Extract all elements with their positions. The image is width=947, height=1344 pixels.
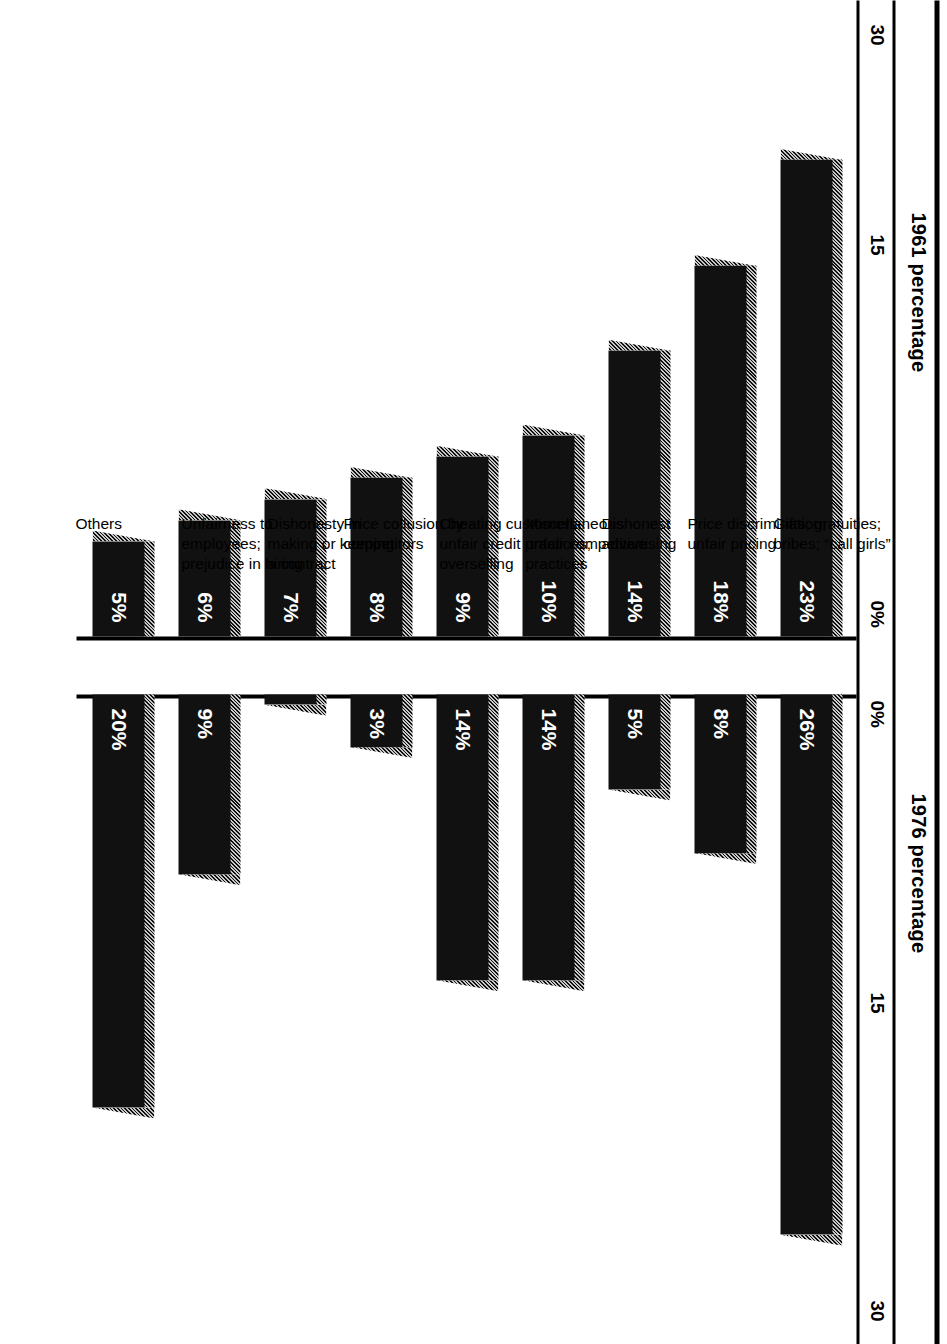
bar-1961: 5% [92,530,154,636]
axis-tick-right-15: 15 [865,992,887,1013]
bar-value-label-1961: 18% [694,580,746,622]
bar-value-label-1961: 9% [436,592,488,622]
category-label-line: prejudice in hiring [181,553,481,573]
bar-value-label-1961: 6% [178,592,230,622]
bar-1976: 3% [350,694,412,758]
plot-1976: 26% 8% 5% 14% 14% 3% [76,694,856,1344]
bar-value-label-1976: 9% [178,708,230,738]
bar-1976: 8% [694,694,756,864]
bar-value-label-1976: 1% [264,708,316,738]
bar-value-label-1961: 7% [264,592,316,622]
axis-tick-right-0: 0% [865,700,887,727]
axis-tick-left-15: 15 [865,234,887,255]
category-label: Others [75,513,375,533]
bar-value-label-1961: 14% [608,580,660,622]
axis-tick-left-0: 0% [865,600,887,627]
bar-value-label-1961: 10% [522,580,574,622]
bar-1976: 26% [780,694,842,1245]
bar-1976: 1% [264,694,326,715]
bar-1961: 18% [694,254,756,636]
bar-value-label-1976: 3% [350,708,402,738]
bar-value-label-1961: 5% [92,592,144,622]
panel-title-1961: 1961 percentage [906,212,929,372]
bar-value-label-1976: 20% [92,708,144,750]
bar-value-label-1961: 8% [350,592,402,622]
bar-value-label-1976: 26% [780,708,832,750]
bar-1976: 5% [608,694,670,800]
bar-value-label-1961: 23% [780,580,832,622]
axis-tick-right-30: 30 [865,1300,887,1321]
bar-value-label-1976: 14% [436,708,488,750]
bar-value-label-1976: 14% [522,708,574,750]
bar-1976: 9% [178,694,240,885]
bar-1976: 14% [436,694,498,991]
panel-title-1976: 1976 percentage [906,793,929,953]
rotated-chart-canvas: 1961 percentage 1976 percentage 30 15 0%… [0,0,947,1344]
bar-value-label-1976: 5% [608,708,660,738]
axis-baseline-1961 [76,636,856,640]
bar-1961: 14% [608,339,670,636]
bar-1976: 14% [522,694,584,991]
category-label-gutter: Gifts; gratuities;bribes; “call girls”Pr… [76,640,856,694]
chart-page: 1961 percentage 1976 percentage 30 15 0%… [0,0,947,1344]
bar-value-label-1976: 8% [694,708,746,738]
frame-rule-top-inner [892,0,895,1344]
bar-1976: 20% [92,694,154,1118]
frame-rule-top-outer [934,0,939,1344]
axis-tick-left-30: 30 [865,24,887,45]
category-label-line: employees; [181,533,481,553]
category-label-line: Others [75,513,375,533]
